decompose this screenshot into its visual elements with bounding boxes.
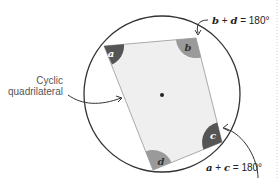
cyclic-label-line2: quadrilateral (8, 86, 63, 97)
angle-d-label: d (158, 156, 165, 167)
equation-bd-arrow (197, 20, 208, 33)
angle-a-label: a (108, 48, 114, 59)
angle-c-label: c (210, 130, 216, 141)
cyclic-label-arrow (68, 95, 121, 103)
equation-bd: b + d = 180° (212, 15, 270, 26)
angle-b-label: b (185, 42, 192, 53)
cyclic-quadrilateral-diagram: a b c d Cyclic quadrilateral b + d = 180… (0, 0, 280, 179)
cyclic-label-line1: Cyclic (36, 75, 63, 86)
equation-ac: a + c = 180° (206, 162, 262, 173)
circle-center-dot (160, 93, 164, 97)
quadrilateral-shape (104, 38, 222, 170)
